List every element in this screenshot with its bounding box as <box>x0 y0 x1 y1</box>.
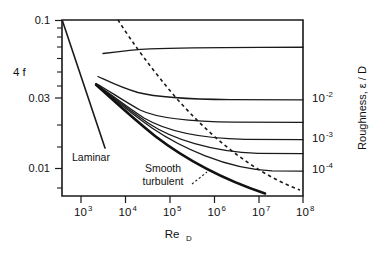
moody-chart-figure: 0.1 0.03 0.01 4 f 10 3 10 4 10 <box>0 0 376 259</box>
x-axis-label-1: 10 4 <box>119 204 138 218</box>
x-axis-label-2-exp: 5 <box>177 204 182 213</box>
x-axis-title: Re D <box>165 228 192 243</box>
laminar-annotation: Laminar <box>72 151 110 163</box>
x-axis-label-4: 10 7 <box>252 204 270 218</box>
y-axis-label-0: 0.1 <box>35 14 50 26</box>
roughness-curve-0 <box>103 47 303 53</box>
plot-border <box>62 20 303 196</box>
y-axis-right-label-0-base: 10 <box>312 92 325 104</box>
x-axis-label-0-base: 10 <box>74 206 87 218</box>
x-axis-label-0-exp: 3 <box>88 204 92 213</box>
x-axis-label-2-base: 10 <box>163 206 176 218</box>
x-axis-label-2: 10 5 <box>163 204 182 218</box>
y-axis-label-2: 0.01 <box>29 162 50 174</box>
x-axis-label-4-exp: 7 <box>266 204 270 213</box>
x-axis-label-1-base: 10 <box>119 206 132 218</box>
x-axis-label-4-base: 10 <box>252 206 265 218</box>
roughness-curves <box>96 47 303 171</box>
y-axis-left-ticks <box>55 21 62 189</box>
x-axis-label-3-base: 10 <box>208 206 221 218</box>
x-axis-label-5-base: 10 <box>296 206 309 218</box>
x-axis-label-0: 10 3 <box>74 204 92 218</box>
y-axis-right-label-2-base: 10 <box>312 163 325 175</box>
smooth-turbulent-leader-line <box>192 172 207 184</box>
laminar-label: Laminar <box>72 151 110 163</box>
smooth-turbulent-label-line2: turbulent <box>143 175 184 187</box>
moody-chart-svg: 0.1 0.03 0.01 4 f 10 3 10 4 10 <box>0 0 376 259</box>
y-axis-right-label-1-base: 10 <box>312 132 325 144</box>
y-axis-right-label-2-exp: -4 <box>326 161 334 170</box>
y-axis-right-title: Roughness, ε / D <box>356 66 368 150</box>
y-axis-right-label-0: 10 -2 <box>312 90 333 104</box>
x-axis-label-5: 10 8 <box>296 204 314 218</box>
x-axis-label-5-exp: 8 <box>310 204 314 213</box>
x-axis-title-base: Re <box>165 228 180 240</box>
y-axis-right-label-2: 10 -4 <box>312 161 334 175</box>
y-axis-right-label-1: 10 -3 <box>312 130 333 144</box>
x-axis-label-1-exp: 4 <box>133 204 138 213</box>
roughness-curve-4 <box>96 84 303 153</box>
roughness-curve-1 <box>98 77 303 100</box>
y-axis-right-labels: 10 -2 10 -3 10 -4 Roughness, ε / D <box>312 66 368 175</box>
x-axis-label-3: 10 6 <box>208 204 226 218</box>
y-axis-label-1: 0.03 <box>29 92 50 104</box>
x-axis-labels: 10 3 10 4 10 5 10 6 10 7 10 8 <box>74 204 314 243</box>
plot-frame <box>62 20 303 196</box>
roughness-curve-5 <box>96 84 303 171</box>
y-axis-right-label-0-exp: -2 <box>326 90 333 99</box>
smooth-turbulent-annotation: Smooth turbulent <box>143 162 207 187</box>
x-axis-label-3-exp: 6 <box>222 204 226 213</box>
smooth-turbulent-label-line1: Smooth <box>145 162 181 174</box>
x-axis-title-sub: D <box>186 234 192 243</box>
y-axis-title: 4 f <box>13 66 27 78</box>
x-axis-ticks <box>81 196 303 203</box>
y-axis-left-labels: 0.1 0.03 0.01 4 f <box>13 14 50 174</box>
y-axis-right-label-1-exp: -3 <box>326 130 333 139</box>
